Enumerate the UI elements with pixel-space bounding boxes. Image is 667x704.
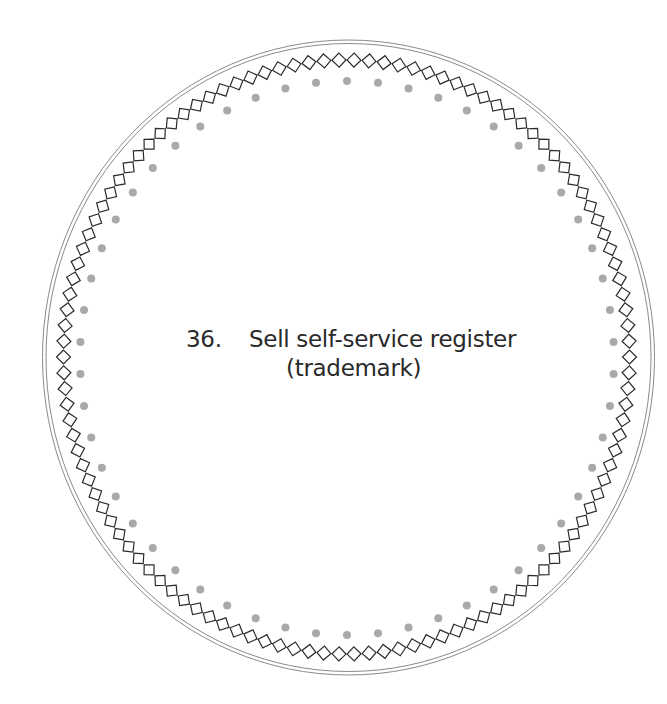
diamond [217, 84, 229, 96]
diamond [598, 228, 611, 241]
dot [537, 164, 545, 172]
dot [405, 84, 413, 92]
diamond [478, 611, 490, 623]
diamond [155, 128, 165, 138]
diamond [133, 553, 144, 564]
diamond [230, 624, 243, 637]
dot [281, 624, 289, 632]
dot [112, 493, 120, 501]
dot [515, 566, 523, 574]
diamond [178, 108, 189, 119]
dot [599, 275, 607, 283]
item-title-line-1: Sell self-service register [249, 326, 516, 352]
diamond [332, 53, 346, 67]
diamond [230, 77, 243, 90]
dot [588, 464, 596, 472]
dot [588, 244, 596, 252]
diamond [362, 54, 376, 68]
dot [574, 216, 582, 224]
diamond [504, 108, 515, 119]
diamond [191, 99, 203, 111]
diamond [76, 242, 89, 255]
diamond [377, 644, 391, 658]
dot [343, 631, 351, 639]
dot [374, 629, 382, 637]
dot [343, 77, 351, 85]
diamond [392, 642, 406, 656]
dot [557, 519, 565, 527]
dot [405, 624, 413, 632]
dot [434, 614, 442, 622]
dot [171, 566, 179, 574]
dot [463, 106, 471, 114]
diamond [67, 428, 81, 442]
dot [610, 338, 618, 346]
diamond [97, 502, 109, 514]
diamond [217, 618, 229, 630]
diamond [559, 162, 570, 173]
diamond [539, 139, 549, 149]
dot [149, 164, 157, 172]
diamond [604, 459, 617, 472]
diamond [133, 150, 144, 161]
diamond [191, 603, 203, 615]
diamond [616, 287, 630, 301]
diamond [422, 635, 435, 648]
diamond [584, 502, 596, 514]
diamond [89, 488, 102, 501]
dot [87, 433, 95, 441]
dot [557, 189, 565, 197]
diamond [568, 528, 579, 539]
diamond [178, 594, 189, 605]
diamond [58, 318, 72, 332]
dot [196, 123, 204, 131]
diamond [273, 639, 287, 653]
dot [80, 306, 88, 314]
diamond [302, 644, 316, 658]
dot [281, 84, 289, 92]
diamond [287, 58, 301, 72]
dot [76, 370, 84, 378]
dot [80, 402, 88, 410]
diamond [622, 366, 636, 380]
dot [312, 629, 320, 637]
diamond [559, 541, 570, 552]
diamond [621, 382, 635, 396]
dot [129, 519, 137, 527]
diamond [273, 62, 287, 76]
diamond [123, 541, 134, 552]
dot [171, 142, 179, 150]
diamond [516, 118, 527, 129]
diamond [332, 647, 346, 661]
diamond [347, 53, 361, 67]
diamond [528, 128, 538, 138]
diamond [76, 459, 89, 472]
dot [515, 142, 523, 150]
dot [574, 493, 582, 501]
diamond [407, 62, 421, 76]
diamond [491, 603, 503, 615]
diamond [57, 366, 71, 380]
diamond [392, 58, 406, 72]
diamond [114, 174, 125, 185]
dot [129, 189, 137, 197]
diamond [57, 350, 71, 364]
dot [98, 244, 106, 252]
diamond [591, 488, 604, 501]
diamond [60, 397, 74, 411]
diamond [422, 66, 435, 79]
diamond [539, 565, 549, 575]
diamond [549, 150, 560, 161]
diamond [609, 444, 622, 457]
diamond [67, 272, 81, 286]
diamond [302, 56, 316, 70]
diamond [144, 565, 154, 575]
diamond [166, 585, 177, 596]
diamond [144, 139, 154, 149]
diamond [203, 91, 215, 103]
diamond [82, 228, 95, 241]
dot [374, 79, 382, 87]
dot [599, 433, 607, 441]
diamond [464, 618, 476, 630]
diamond [377, 56, 391, 70]
